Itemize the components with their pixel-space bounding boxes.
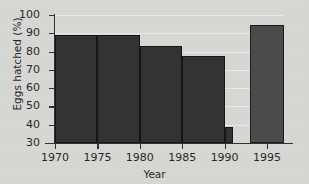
plot-area (55, 15, 284, 143)
y-axis-title: Eggs hatched (%) (11, 4, 23, 124)
y-tick-label-30: 30 (14, 137, 40, 148)
bar-chart: 30405060708090100 1970197519801985199019… (0, 0, 309, 184)
y-tick-80 (49, 52, 55, 53)
bar-1990 (225, 127, 233, 143)
bar-1980-1985 (140, 46, 182, 143)
x-tick-label-1970: 1970 (35, 152, 75, 163)
x-axis-title: Year (0, 168, 309, 180)
bar-1985-1990 (182, 56, 224, 143)
x-tick-1975 (97, 143, 98, 149)
bar-1995 (250, 25, 284, 143)
y-tick-40 (49, 125, 55, 126)
x-tick-label-1985: 1985 (162, 152, 202, 163)
x-tick-1990 (225, 143, 226, 149)
x-tick-label-1990: 1990 (205, 152, 245, 163)
x-tick-1985 (182, 143, 183, 149)
gridline-100 (55, 15, 284, 16)
x-tick-1970 (55, 143, 56, 149)
y-tick-90 (49, 33, 55, 34)
y-tick-70 (49, 70, 55, 71)
x-tick-label-1995: 1995 (247, 152, 287, 163)
bar-1975-1980 (97, 35, 139, 143)
x-tick-label-1980: 1980 (120, 152, 160, 163)
x-axis-line (45, 143, 293, 144)
x-tick-1995 (267, 143, 268, 149)
y-tick-60 (49, 88, 55, 89)
y-tick-50 (49, 106, 55, 107)
bar-1970-1975 (55, 35, 97, 143)
y-tick-100 (49, 15, 55, 16)
x-tick-label-1975: 1975 (77, 152, 117, 163)
x-tick-1980 (140, 143, 141, 149)
